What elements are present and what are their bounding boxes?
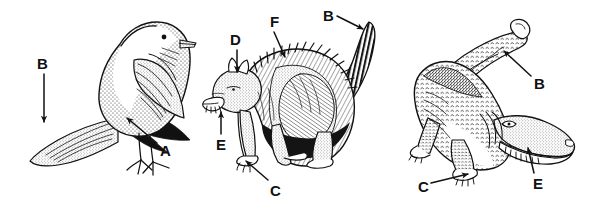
figure-illustration <box>0 0 589 205</box>
cat-label-d[interactable]: D <box>230 32 241 47</box>
cat-label-c[interactable]: C <box>270 183 281 198</box>
croc-label-c[interactable]: C <box>418 179 429 194</box>
cat-label-b[interactable]: B <box>323 8 334 23</box>
anatomy-figure: B A D F B E C B C E <box>0 0 589 205</box>
croc-label-e[interactable]: E <box>533 176 543 191</box>
cat-label-f[interactable]: F <box>270 14 279 29</box>
bird-label-a[interactable]: A <box>160 143 171 158</box>
croc-label-b[interactable]: B <box>534 76 545 91</box>
cat-label-e[interactable]: E <box>216 137 226 152</box>
bird-label-b[interactable]: B <box>37 56 48 71</box>
